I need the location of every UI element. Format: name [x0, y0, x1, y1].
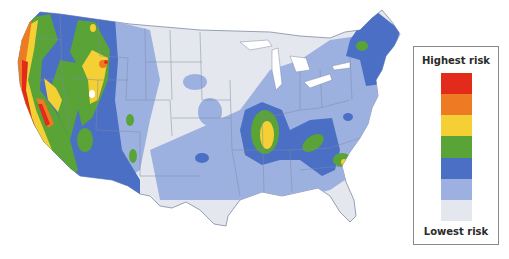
legend-swatch-level-2	[441, 179, 472, 200]
zone-level-3-virginia	[343, 113, 353, 121]
legend-lowest-label: Lowest risk	[414, 226, 498, 237]
zone-level-3-oklahoma	[195, 153, 209, 163]
legend-color-scale	[441, 73, 472, 221]
legend-swatch-level-4	[441, 136, 472, 157]
zone-level-5-charleston	[341, 159, 347, 165]
great-salt-lake	[89, 90, 95, 98]
legend-swatch-level-7	[441, 73, 472, 94]
zone-level-2-nebraska	[183, 74, 207, 90]
zone-level-5-idaho	[90, 24, 96, 32]
legend-highest-label: Highest risk	[414, 55, 498, 66]
zone-level-4-newmexico	[129, 149, 137, 163]
zone-level-4-arizona	[77, 128, 93, 152]
zone-level-5-newmadrid	[260, 121, 274, 149]
zone-level-7-yellowstone	[104, 60, 108, 64]
legend-swatch-level-5	[441, 115, 472, 136]
legend-swatch-level-3	[441, 158, 472, 179]
risk-legend: Highest risk Lowest risk	[413, 46, 499, 245]
legend-swatch-level-1	[441, 200, 472, 221]
zone-level-2-kansas	[198, 98, 222, 126]
legend-swatch-level-6	[441, 94, 472, 115]
zone-level-4-colorado	[126, 114, 134, 126]
zone-level-4-newyork	[356, 41, 368, 51]
